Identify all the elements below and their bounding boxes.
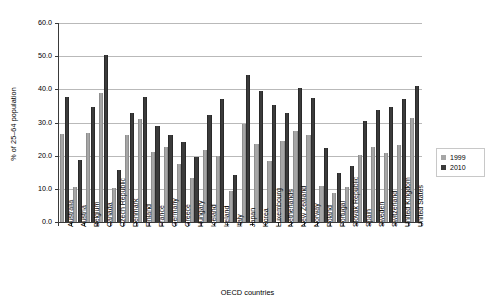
x-category-label: Slovak Republic bbox=[352, 177, 359, 227]
y-tick-label: 30.0 bbox=[22, 119, 52, 126]
x-category-label: Austria bbox=[80, 205, 87, 227]
x-axis-title: OECD countries bbox=[0, 288, 495, 297]
bar-2010-canada bbox=[104, 55, 108, 222]
x-category-label: United States bbox=[417, 185, 424, 227]
y-tick-label: 40.0 bbox=[22, 85, 52, 92]
x-category-label: Korea bbox=[262, 208, 269, 227]
x-category-label: Czech Republic bbox=[119, 178, 126, 227]
x-category-label: Netherlands bbox=[287, 189, 294, 227]
x-tick-mark bbox=[58, 223, 59, 226]
y-tick-label: 50.0 bbox=[22, 52, 52, 59]
legend-item-1999: 1999 bbox=[441, 153, 479, 162]
bar-2010-spain bbox=[363, 121, 367, 222]
x-category-label: New Zealand bbox=[300, 186, 307, 227]
x-category-label: Denmark bbox=[132, 199, 139, 227]
legend-label-1999: 1999 bbox=[450, 154, 466, 161]
y-axis-title: % of 25–64 population bbox=[8, 24, 20, 224]
x-category-label: Germany bbox=[171, 198, 178, 227]
bar-chart: % of 25–64 population 0.010.020.030.040.… bbox=[0, 0, 495, 308]
x-category-label: Japan bbox=[249, 208, 256, 227]
bar-1999-japan bbox=[242, 124, 246, 223]
x-category-label: Greece bbox=[184, 204, 191, 227]
y-tick-label: 20.0 bbox=[22, 152, 52, 159]
y-tick-label: 10.0 bbox=[22, 185, 52, 192]
bar-2010-ireland bbox=[220, 99, 224, 222]
legend-item-2010: 2010 bbox=[441, 163, 479, 172]
y-tick-label: 0.0 bbox=[22, 218, 52, 225]
x-category-label: Switzerland bbox=[391, 191, 398, 227]
x-category-label: Norway bbox=[313, 203, 320, 227]
x-category-label: Hungary bbox=[197, 201, 204, 227]
bar-2010-korea bbox=[259, 91, 263, 222]
x-category-label: Canada bbox=[106, 202, 113, 227]
y-tick-label: 60.0 bbox=[22, 19, 52, 26]
x-category-label: Sweden bbox=[378, 202, 385, 227]
legend-swatch-1999 bbox=[441, 155, 446, 160]
x-category-label: France bbox=[158, 205, 165, 227]
x-category-label: Spain bbox=[365, 209, 372, 227]
legend-swatch-2010 bbox=[441, 165, 446, 170]
x-category-label: Italy bbox=[236, 214, 243, 227]
x-category-label: Finland bbox=[145, 204, 152, 227]
x-category-label: Ireland bbox=[223, 206, 230, 227]
x-category-label: Iceland bbox=[210, 204, 217, 227]
bar-2010-japan bbox=[246, 75, 250, 222]
legend-label-2010: 2010 bbox=[450, 164, 466, 171]
plot-area bbox=[58, 23, 421, 222]
x-category-label: Belgium bbox=[93, 202, 100, 227]
x-category-label: Australia bbox=[67, 200, 74, 227]
x-category-label: Portugal bbox=[339, 201, 346, 227]
bar-1999-new-zealand bbox=[293, 131, 297, 222]
x-category-label: Poland bbox=[326, 205, 333, 227]
x-category-label: United Kingdom bbox=[404, 177, 411, 227]
bar-1999-australia bbox=[60, 134, 64, 222]
x-category-label: Luxembourg bbox=[275, 188, 282, 227]
chart-legend: 1999 2010 bbox=[436, 148, 485, 177]
